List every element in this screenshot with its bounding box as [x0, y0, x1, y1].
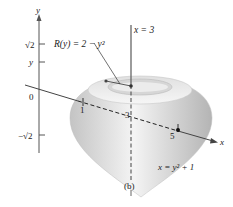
x-axis-label: x [219, 137, 224, 147]
solid-of-revolution-figure: y √2 y 0 −√2 1 3 5 x R(y) = 2 − y² x = 3… [0, 0, 233, 207]
radius-point-left [104, 79, 107, 82]
y-tick-label-0: 0 [29, 92, 34, 102]
x-tick-label-5: 5 [170, 131, 175, 141]
x-tick-label-1: 1 [80, 105, 85, 115]
y-axis-label: y [35, 5, 40, 15]
line-label: x = 3 [133, 25, 154, 35]
x-tick-label-3: 3 [125, 110, 130, 120]
y-tick-label-neg-sqrt2: −√2 [18, 131, 33, 141]
radius-leader [94, 43, 120, 84]
x-axis-arrow [210, 138, 218, 144]
radius-label: R(y) = 2 − y² [53, 39, 105, 50]
y-tick-label-sqrt2: √2 [25, 40, 34, 50]
point-x5 [176, 128, 180, 132]
y-tick-label-y: y [28, 57, 33, 67]
y-axis-arrow [37, 14, 42, 21]
curve-label: x = y² + 1 [157, 162, 194, 172]
figure-caption: (b) [124, 181, 135, 191]
radius-point-center [129, 84, 133, 88]
